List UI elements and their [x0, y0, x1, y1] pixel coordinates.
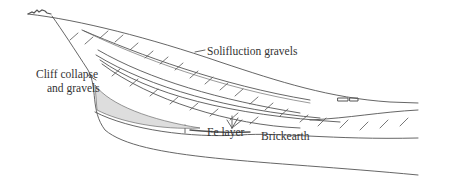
animal-figure	[338, 98, 358, 101]
label-fe-layer: Fe layer	[207, 126, 244, 138]
label-solifluction-gravels: Solifluction gravels	[207, 45, 297, 57]
label-cliff-collapse: Cliff collapse	[36, 68, 98, 80]
label-and-gravels: and gravels	[47, 82, 100, 94]
vegetation-top	[28, 10, 51, 14]
label-brickearth: Brickearth	[261, 130, 310, 142]
gravel-stipple	[95, 85, 200, 128]
